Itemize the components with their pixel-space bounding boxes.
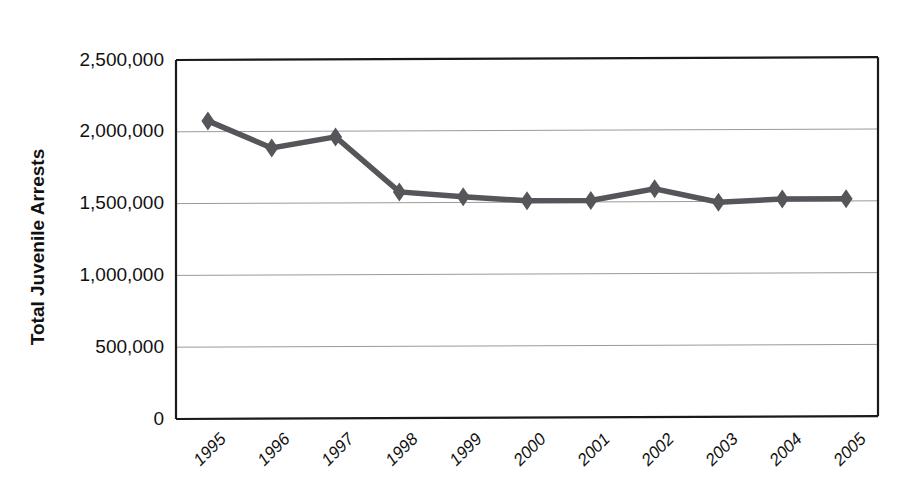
ytick-label-0: 0 <box>153 408 164 429</box>
chart-container: 2,500,000 2,000,000 1,500,000 1,000,000 … <box>0 0 920 487</box>
y-axis-title-group: Total Juvenile Arrests <box>27 149 48 345</box>
ytick-label-1500000: 1,500,000 <box>79 192 164 213</box>
ytick-label-2500000: 2,500,000 <box>79 49 164 70</box>
line-chart: 2,500,000 2,000,000 1,500,000 1,000,000 … <box>0 0 920 487</box>
ytick-label-2000000: 2,000,000 <box>79 120 164 141</box>
chart-background <box>0 0 920 487</box>
ytick-label-1000000: 1,000,000 <box>79 264 164 285</box>
y-axis-title: Total Juvenile Arrests <box>27 149 48 345</box>
ytick-label-500000: 500,000 <box>95 336 164 357</box>
